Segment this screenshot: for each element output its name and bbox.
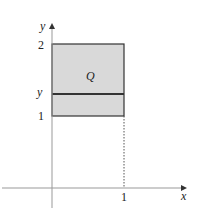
y-tick-1: 1 <box>38 109 44 123</box>
y-axis-label: y <box>39 19 46 33</box>
y-var-label: y <box>36 85 43 99</box>
y-tick-2: 2 <box>38 38 44 52</box>
region-label: Q <box>86 69 95 83</box>
region-diagram: y 2 y 1 Q 1 x <box>0 0 198 219</box>
x-axis-label: x <box>180 189 187 203</box>
x-tick-1: 1 <box>121 190 127 204</box>
